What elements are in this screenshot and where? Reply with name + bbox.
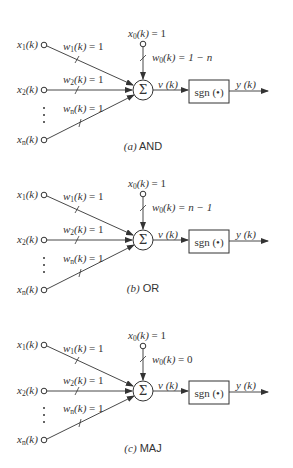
- output-label: y (k): [236, 229, 256, 240]
- ellipsis-dot: [43, 271, 45, 273]
- bias-input-label: x0(k) = 1: [128, 178, 166, 189]
- output-label: y (k): [236, 79, 256, 90]
- weight-label-w2: w2(k) = 1: [63, 224, 104, 235]
- weight-label-wn: wn(k) = 1: [63, 253, 104, 264]
- bias-input-label: x0(k) = 1: [128, 330, 166, 341]
- sigma-symbol: Σ: [139, 234, 147, 246]
- weight-label-w1: w1(k) = 1: [63, 191, 104, 202]
- induced-field-label: v (k): [158, 380, 178, 391]
- bias-node-x0: [140, 191, 146, 197]
- weight-label-w2: w2(k) = 1: [63, 375, 104, 386]
- input-label-x2: x2(k): [17, 84, 38, 95]
- bias-weight-label: w0(k) = 0: [152, 354, 193, 365]
- ellipsis-dot: [43, 407, 45, 409]
- bias-node-x0: [140, 343, 146, 349]
- ellipsis-dot: [43, 107, 45, 109]
- ellipsis-dot: [43, 257, 45, 259]
- input-node-x1: [41, 192, 47, 198]
- ellipsis-dot: [43, 264, 45, 266]
- neuron-diagram-and: [0, 0, 293, 150]
- input-node-x1: [41, 42, 47, 48]
- input-node-xn: [41, 137, 47, 143]
- input-node-xn: [41, 437, 47, 443]
- input-label-x1: x1(k): [17, 189, 38, 200]
- input-node-x2: [41, 237, 47, 243]
- output-label: y (k): [236, 380, 256, 391]
- input-node-x1: [41, 342, 47, 348]
- ellipsis-dot: [43, 121, 45, 123]
- weight-label-wn: wn(k) = 1: [63, 403, 104, 414]
- input-label-x1: x1(k): [17, 339, 38, 350]
- bias-weight-label: w0(k) = 1 − n: [152, 52, 212, 63]
- sigma-symbol: Σ: [139, 84, 147, 96]
- sigma-symbol: Σ: [139, 385, 147, 397]
- input-label-x1: x1(k): [17, 39, 38, 50]
- weight-label-w1: w1(k) = 1: [63, 343, 104, 354]
- weight-label-w2: w2(k) = 1: [63, 74, 104, 85]
- input-label-x2: x2(k): [17, 234, 38, 245]
- input-label-xn: xn(k): [17, 134, 38, 145]
- ellipsis-dot: [43, 421, 45, 423]
- ellipsis-dot: [43, 114, 45, 116]
- bias-weight-label: w0(k) = n − 1: [152, 202, 212, 213]
- induced-field-label: v (k): [158, 229, 178, 240]
- weight-label-w1: w1(k) = 1: [63, 41, 104, 52]
- input-node-x2: [41, 87, 47, 93]
- input-label-xn: xn(k): [17, 434, 38, 445]
- activation-label: sgn (•): [194, 237, 223, 248]
- panel-maj: x1(k) x2(k) xn(k) w1(k) = 1 w2(k) = 1 wn…: [0, 300, 293, 450]
- panel-caption: (b) OR: [127, 283, 159, 294]
- bias-node-x0: [140, 41, 146, 47]
- input-node-x2: [41, 388, 47, 394]
- bias-input-label: x0(k) = 1: [128, 28, 166, 39]
- weight-tick-1: [75, 56, 79, 63]
- induced-field-label: v (k): [158, 79, 178, 90]
- panel-and: x1(k) x2(k) xn(k) w1(k) = 1 w2(k) = 1 wn…: [0, 0, 293, 150]
- input-label-x2: x2(k): [17, 385, 38, 396]
- panel-or: x1(k) x2(k) xn(k) w1(k) = 1 w2(k) = 1 wn…: [0, 150, 293, 300]
- neuron-diagram-or: [0, 150, 293, 300]
- weight-label-wn: wn(k) = 1: [63, 103, 104, 114]
- panel-caption: (c) MAJ: [124, 443, 161, 454]
- input-node-xn: [41, 287, 47, 293]
- ellipsis-dot: [43, 414, 45, 416]
- input-label-xn: xn(k): [17, 284, 38, 295]
- weight-tick-1: [75, 206, 79, 213]
- activation-label: sgn (•): [194, 87, 223, 98]
- activation-label: sgn (•): [194, 388, 223, 399]
